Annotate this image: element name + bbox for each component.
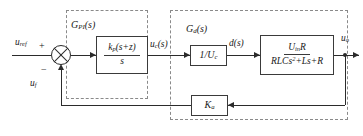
group-label-plant: Gd(s) <box>186 24 207 35</box>
arrow-into-summer-feedback <box>58 64 64 70</box>
wire-reference-to-summer <box>12 55 51 56</box>
summer-negative-sign: − <box>41 65 47 75</box>
group-label-pi-controller: GPI(s) <box>71 20 95 31</box>
plant-numerator: UinR <box>284 43 310 55</box>
wire-feedback-up-to-summer <box>61 70 62 105</box>
signal-label-feedback: uf <box>30 79 37 89</box>
block-diagram: GPI(s) Gd(s) uref + − kp(s+z) s uc(s) 1/… <box>0 0 363 136</box>
pi-denominator: s <box>116 56 128 67</box>
signal-label-output: uo <box>341 34 349 44</box>
summing-junction <box>51 45 71 65</box>
wire-feedback-gain-to-summer <box>61 105 191 106</box>
signal-label-duty: d(s) <box>229 39 244 49</box>
block-feedback-gain: Ka <box>191 95 228 116</box>
pi-numerator: kp(s+z) <box>104 43 140 55</box>
block-inverse-uc: 1/Uc <box>190 45 227 66</box>
arrow-into-feedback-gain <box>228 102 234 108</box>
plant-denominator: RLCs2+Ls+R <box>267 55 327 67</box>
wire-output-to-feedback-gain <box>228 105 345 106</box>
inverse-uc-expression: 1/Uc <box>196 50 220 61</box>
summer-positive-sign: + <box>39 41 45 51</box>
feedback-gain-expression: Ka <box>201 100 217 111</box>
signal-label-controller-output: uc(s) <box>150 40 168 50</box>
wire-output-node-down <box>345 55 346 105</box>
block-pi-controller: kp(s+z) s <box>96 36 148 74</box>
arrow-output <box>353 52 359 58</box>
block-plant: UinR RLCs2+Ls+R <box>260 35 334 75</box>
signal-label-reference: uref <box>15 38 27 48</box>
